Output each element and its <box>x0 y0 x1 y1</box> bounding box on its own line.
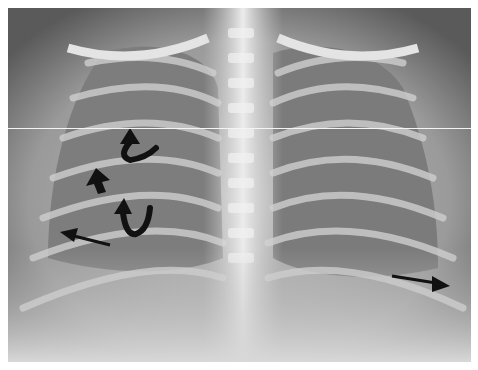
xray-render <box>8 8 471 362</box>
scan-line-artifact <box>8 128 471 129</box>
abdomen <box>8 248 471 362</box>
radiograph-image <box>8 8 471 362</box>
